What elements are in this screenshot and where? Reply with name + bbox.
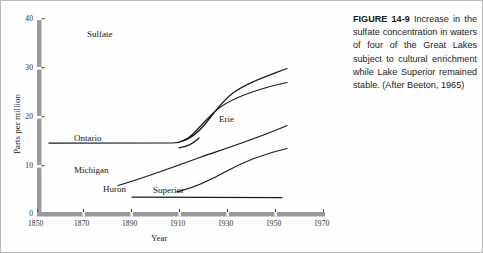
y-tick-label-40: 40 xyxy=(17,14,33,23)
x-tick-label-1850: 1850 xyxy=(28,219,43,228)
y-tick-label-0: 0 xyxy=(17,209,33,218)
series-label-superior: Superior xyxy=(153,185,184,195)
chart-plot-area xyxy=(1,1,346,253)
x-tick-label-1950: 1950 xyxy=(266,219,281,228)
x-tick-label-1890: 1890 xyxy=(122,219,137,228)
curve-huron xyxy=(177,149,287,192)
figure-number: FIGURE 14-9 xyxy=(353,14,410,24)
chart-title: Sulfate xyxy=(87,29,113,39)
series-label-michigan: Michigan xyxy=(74,165,109,175)
x-tick-label-1910: 1910 xyxy=(170,219,185,228)
y-axis-title: Parts per million xyxy=(12,84,22,164)
figure-caption-body: Increase in the sulfate concentration in… xyxy=(353,14,477,90)
x-tick-label-1870: 1870 xyxy=(74,219,89,228)
series-label-erie: Erie xyxy=(219,114,234,124)
curve-ontario-branch xyxy=(179,138,199,148)
y-axis xyxy=(37,18,45,216)
figure-caption: FIGURE 14-9 Increase in the sulfate conc… xyxy=(353,13,477,92)
series-label-ontario: Ontario xyxy=(74,133,102,143)
x-tick-label-1930: 1930 xyxy=(218,219,233,228)
y-tick-label-30: 30 xyxy=(17,63,33,72)
chart-panel: Sulfate 40 30 20 10 0 1850 1870 1890 191… xyxy=(1,1,346,253)
figure-container: Sulfate 40 30 20 10 0 1850 1870 1890 191… xyxy=(0,0,483,253)
series-label-huron: Huron xyxy=(103,184,126,194)
x-axis-title: Year xyxy=(151,233,168,243)
x-tick-label-1970: 1970 xyxy=(314,219,329,228)
x-axis xyxy=(37,209,325,217)
